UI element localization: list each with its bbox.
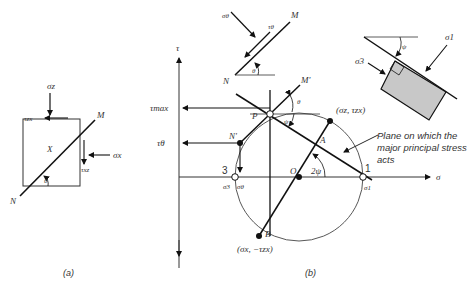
m-label: M (96, 110, 105, 120)
psi-arc-icon (289, 114, 294, 126)
a-coord-label: (σz, τzx) (336, 105, 365, 115)
annotation-line-1: Plane on which the (377, 130, 457, 141)
sigma-axis-label: σ (436, 172, 441, 182)
inset-tau-theta-label: τθ (268, 23, 275, 31)
caption-b: (b) (305, 268, 316, 278)
inset-plane-stresses: σθ τθ M N θ (222, 10, 299, 86)
sigma-z-label: σz (47, 81, 55, 91)
n-label: N (9, 196, 17, 206)
mohr-circle-figure: σz τzx M X σx τxz θ N (a) τ σ τmax (0, 0, 468, 290)
inset-theta-arc-icon (255, 63, 259, 75)
theta-arc-b-icon (290, 95, 293, 112)
point-3 (232, 174, 239, 181)
pole-point-p (267, 111, 274, 118)
tau-xz-label: τxz (81, 166, 90, 174)
inset-m-label: M (290, 10, 299, 20)
b-coord-label: (σx, −τzx) (237, 244, 273, 254)
point-a (327, 118, 333, 124)
inset-n-label: N (222, 76, 230, 86)
tau-zx-label: τzx (24, 115, 33, 123)
m-prime-line (270, 85, 300, 114)
sigma-x-label: σx (113, 150, 121, 160)
sigma-1-label: σ1 (364, 184, 371, 192)
o-label: O (290, 166, 297, 176)
point-1-label: 1 (365, 163, 371, 174)
inset-sigma-theta-label: σθ (222, 12, 229, 20)
sigma-theta-label: σθ (237, 183, 244, 191)
inset-plane-line (235, 22, 290, 75)
sigma-3-label: σ3 (223, 183, 230, 191)
inset-sigma-1-label: σ1 (445, 32, 454, 42)
m-prime-label: M' (300, 75, 311, 85)
inset-sigma-3-label: σ3 (355, 56, 364, 66)
tau-max-label: τmax (150, 103, 168, 113)
point-1 (360, 174, 367, 181)
annotation-line-3: acts (377, 154, 395, 165)
inset-sigma-3-arrow-icon (368, 63, 385, 74)
annotation-line-2: major principal stress (377, 142, 467, 153)
point-n-prime (237, 140, 243, 146)
theta-b-label: θ (297, 98, 301, 106)
tau-axis-label: τ (176, 43, 180, 53)
inset-principal-element: ψ σ1 σ3 (355, 32, 457, 120)
p-label: P (251, 111, 258, 121)
point-3-label: 3 (222, 165, 228, 176)
two-psi-label: 2ψ (311, 166, 322, 176)
n-prime-label: N' (228, 131, 238, 141)
x-label: X (46, 144, 53, 154)
point-b (256, 233, 262, 239)
tau-theta-label: τθ (157, 138, 165, 148)
theta-label: θ (44, 177, 48, 185)
inset-theta-label: θ (252, 67, 256, 75)
caption-a: (a) (63, 268, 74, 278)
psi-label: ψ (284, 118, 289, 126)
b-label: B (265, 229, 271, 239)
center-o (296, 174, 302, 180)
inset-psi-arc-icon (396, 37, 401, 56)
a-label: A (319, 135, 326, 145)
inset-sigma-theta-arrow-icon (231, 12, 255, 37)
inset-sigma-1-arrow-icon (426, 45, 447, 71)
figure-a-stress-element: σz τzx M X σx τxz θ N (a) (9, 81, 121, 278)
inset-psi-label: ψ (402, 43, 407, 51)
